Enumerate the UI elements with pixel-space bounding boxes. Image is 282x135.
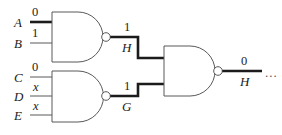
wire-net-h-intermediate xyxy=(110,37,164,58)
input-label-a: A xyxy=(14,16,22,29)
final-output-label: H xyxy=(240,75,249,88)
gate-2-nand-body xyxy=(52,71,103,122)
net-g-value: 1 xyxy=(124,80,130,93)
input-value-a: 0 xyxy=(32,6,38,19)
input-label-c: C xyxy=(14,71,23,84)
gate-2-inversion-bubble xyxy=(102,92,111,101)
net-h-label: H xyxy=(122,41,131,54)
input-label-e: E xyxy=(14,109,22,122)
input-value-c: 0 xyxy=(32,61,38,74)
wire-net-g-intermediate xyxy=(110,84,164,96)
final-output-value: 0 xyxy=(241,55,247,68)
input-value-e: x xyxy=(33,100,39,113)
input-value-d: x xyxy=(33,81,39,94)
input-label-d: D xyxy=(14,90,23,103)
circuit-canvas xyxy=(0,0,282,135)
gate-3-nand-body xyxy=(164,46,215,96)
logic-circuit-diagram: A 0 B 1 C 0 D x E x 1 H 1 G 0 H ... xyxy=(0,0,282,135)
gate-1-nand-body xyxy=(52,12,103,62)
net-h-value: 1 xyxy=(124,21,130,34)
output-continuation-ellipsis: ... xyxy=(265,66,278,79)
net-g-label: G xyxy=(122,100,131,113)
input-value-b: 1 xyxy=(32,27,38,40)
input-label-b: B xyxy=(14,37,22,50)
gate-1-inversion-bubble xyxy=(102,33,111,42)
gate-3-inversion-bubble xyxy=(214,67,223,76)
